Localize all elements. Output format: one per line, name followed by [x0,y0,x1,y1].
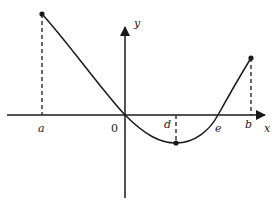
function-graph: a 0 d e b x y [0,0,274,200]
point-min-dot [173,140,178,145]
label-e: e [215,122,222,135]
point-b-dot [248,55,253,60]
label-y: y [133,17,141,30]
label-x: x [264,122,271,135]
point-a-dot [39,11,44,16]
label-origin: 0 [111,122,118,135]
label-d: d [164,118,171,131]
label-b: b [245,118,252,131]
label-a: a [38,122,45,135]
